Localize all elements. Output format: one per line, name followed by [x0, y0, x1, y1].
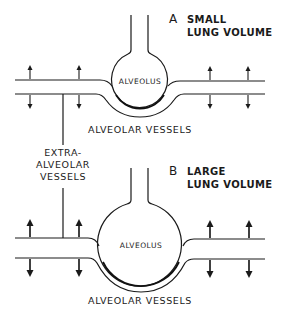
extra-alveolar-label-line1: EXTRA- [44, 147, 82, 158]
vessel-upper-right-b [183, 239, 265, 246]
panel-title-a-line2: LUNG VOLUME [187, 27, 273, 38]
airway-left-wall-a [128, 15, 131, 54]
panel-letter-a: A [169, 12, 178, 26]
panel-title-b-line1: LARGE [187, 166, 226, 177]
panel-a: ALVEOLUS ALVEOLAR VESSELS A SMALL LUNG V… [15, 12, 273, 135]
airway-right-wall-a [148, 15, 151, 54]
alveolar-vessels-label-b: ALVEOLAR VESSELS [88, 295, 192, 306]
alveolus-label-a: ALVEOLUS [119, 77, 161, 86]
extra-alveolar-label-line2: ALVEOLAR [36, 159, 90, 170]
expansion-arrows-up-b [27, 219, 253, 238]
expansion-arrows-down-a [28, 95, 251, 109]
panel-letter-b: B [169, 164, 177, 178]
extra-alveolar-callout: EXTRA- ALVEOLAR VESSELS [36, 94, 90, 238]
vessel-upper-left-b [15, 238, 99, 246]
alveolus-label-b: ALVEOLUS [120, 241, 162, 250]
alveolar-vessels-label-a: ALVEOLAR VESSELS [88, 124, 192, 135]
expansion-arrows-down-b [27, 259, 253, 278]
vessel-upper-right-a [168, 81, 265, 86]
airway-left-wall-b [127, 168, 131, 204]
airway-right-wall-b [148, 168, 152, 204]
panel-title-b-line2: LUNG VOLUME [187, 179, 273, 190]
alveolus-b-lower-wall [103, 262, 179, 286]
vessel-lower-a [15, 94, 265, 117]
lung-volume-diagram: ALVEOLUS ALVEOLAR VESSELS A SMALL LUNG V… [0, 0, 281, 320]
vessel-upper-left-a [15, 80, 112, 86]
panel-title-a-line1: SMALL [187, 14, 227, 25]
panel-b: ALVEOLUS ALVEOLAR VESSELS B LARGE LUNG V… [15, 164, 273, 306]
extra-alveolar-label-line3: VESSELS [40, 171, 86, 182]
